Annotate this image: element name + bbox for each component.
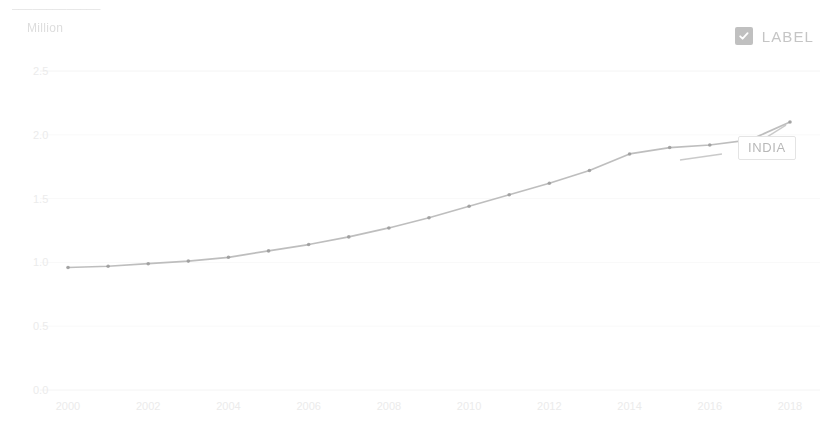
data-point[interactable] <box>347 235 351 239</box>
data-point[interactable] <box>507 193 511 197</box>
data-point[interactable] <box>628 152 632 156</box>
x-tick-label: 2000 <box>56 400 80 412</box>
y-tick-label: 2.0 <box>33 129 48 141</box>
data-point[interactable] <box>187 259 191 263</box>
y-tick-label: 0.5 <box>33 320 48 332</box>
x-tick-label: 2006 <box>296 400 320 412</box>
x-tick-label: 2018 <box>778 400 802 412</box>
series-line-india <box>68 122 790 267</box>
data-point[interactable] <box>788 120 792 124</box>
x-tick-label: 2012 <box>537 400 561 412</box>
y-tick-label: 0.0 <box>33 384 48 396</box>
x-tick-label: 2002 <box>136 400 160 412</box>
data-point[interactable] <box>548 181 552 185</box>
y-axis-ticks: 0.00.51.01.52.02.5 <box>33 65 48 396</box>
x-tick-label: 2004 <box>216 400 240 412</box>
data-point[interactable] <box>106 264 110 268</box>
chart-svg: 0.00.51.01.52.02.5 200020022004200620082… <box>0 0 828 422</box>
data-point[interactable] <box>66 266 70 270</box>
data-point[interactable] <box>227 255 231 259</box>
annotation-india[interactable]: INDIA <box>738 136 796 160</box>
x-tick-label: 2014 <box>617 400 641 412</box>
data-series <box>66 120 792 269</box>
y-tick-label: 1.5 <box>33 193 48 205</box>
data-point[interactable] <box>307 243 311 247</box>
data-point[interactable] <box>588 169 592 173</box>
x-axis-ticks: 2000200220042006200820102012201420162018 <box>56 400 802 412</box>
chart-screenshot: ————————————— Million LABEL 0.00.51.01.5… <box>0 0 828 422</box>
data-point[interactable] <box>387 226 391 230</box>
data-point[interactable] <box>668 146 672 150</box>
data-point[interactable] <box>146 262 150 266</box>
x-tick-label: 2010 <box>457 400 481 412</box>
gridlines <box>40 71 820 390</box>
line-chart-plot: 0.00.51.01.52.02.5 200020022004200620082… <box>0 0 828 422</box>
y-tick-label: 1.0 <box>33 256 48 268</box>
data-point[interactable] <box>467 204 471 208</box>
data-point[interactable] <box>708 143 712 147</box>
data-point[interactable] <box>267 249 271 253</box>
x-tick-label: 2016 <box>698 400 722 412</box>
y-tick-label: 2.5 <box>33 65 48 77</box>
data-point[interactable] <box>427 216 431 220</box>
x-tick-label: 2008 <box>377 400 401 412</box>
